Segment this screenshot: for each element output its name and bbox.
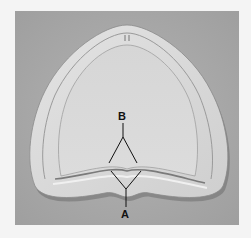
dental-cast-photo: B A	[15, 11, 239, 225]
label-a: A	[121, 209, 129, 220]
label-b: B	[118, 111, 126, 122]
cast-illustration	[15, 11, 239, 225]
